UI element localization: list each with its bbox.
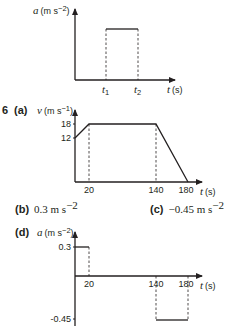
x-tick-140: 140	[148, 279, 163, 289]
x-tick-180: 180	[178, 185, 193, 195]
x-tick-20: 20	[84, 185, 94, 195]
tick-t1: t1	[102, 83, 109, 97]
y-tick-18: 18	[61, 119, 71, 129]
y-tick-neg0.45: -0.45	[50, 314, 71, 324]
y-tick-12: 12	[61, 133, 71, 143]
part-d-label: (d)	[15, 226, 29, 238]
y-tick-0.3: 0.3	[58, 242, 71, 252]
y-axis-label: a(m s−2)	[37, 226, 74, 238]
x-tick-20: 20	[84, 279, 94, 289]
x-axis-label: t(s)	[167, 83, 183, 95]
y-axis-label: a(m s−2)	[33, 4, 70, 16]
figure-canvas: a(m s−2) t1 t2 t(s) 6 (a) v(m s−1) 18 12…	[0, 0, 232, 330]
graph-acceleration-pulse: a(m s−2) t1 t2 t(s)	[33, 4, 183, 97]
graph-velocity-time: v(m s−1) 18 12 20 140 180 t(s)	[37, 104, 216, 197]
x-axis-label: t(s)	[200, 279, 216, 291]
question-number: 6	[2, 104, 8, 116]
x-axis-label: t(s)	[200, 185, 216, 197]
answer-b: (b)0.3 m s−2	[15, 199, 78, 215]
x-tick-180: 180	[178, 279, 193, 289]
y-axis-label: v(m s−1)	[37, 104, 73, 116]
x-tick-140: 140	[148, 185, 163, 195]
answer-c: (c)−0.45 m s−2	[150, 199, 224, 215]
tick-t2: t2	[134, 83, 141, 97]
graph-acceleration-time: a(m s−2) 0.3 -0.45 20 140 180 t(s)	[37, 226, 216, 326]
part-a-label: (a)	[14, 104, 28, 116]
velocity-line	[75, 124, 188, 182]
